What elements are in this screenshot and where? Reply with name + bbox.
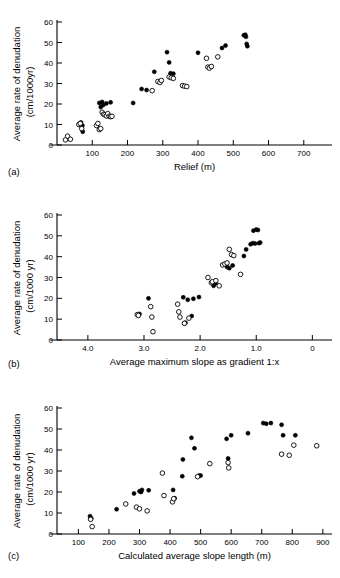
x-tick-label: 400 [191, 149, 205, 158]
data-point-open [225, 261, 230, 266]
data-point-filled [152, 70, 156, 74]
y-tick-label: 40 [44, 446, 53, 455]
x-tick-label: 900 [316, 538, 330, 547]
data-point-open [231, 253, 236, 258]
data-point-filled [191, 297, 195, 301]
data-point-open [215, 55, 220, 60]
y-tick-label: 20 [44, 488, 53, 497]
y-tick-label: 10 [44, 509, 53, 518]
panel-label-a: (a) [8, 166, 20, 177]
x-axis-title: Calculated average slope length (m) [118, 550, 271, 561]
x-tick-label: 800 [286, 538, 300, 547]
data-point-filled [132, 491, 136, 495]
data-point-open [176, 310, 181, 315]
data-point-filled [258, 241, 262, 245]
data-point-open [187, 316, 192, 321]
y-axis-title-line2: (cm/1000 yr) [24, 452, 35, 505]
data-point-open [217, 284, 222, 289]
data-point-filled [196, 51, 200, 55]
chart-panel-c: 0102030405060100200300400500600700800900… [0, 386, 340, 578]
data-point-open [96, 121, 101, 126]
chart-panel-a: 0102030405060100200300400500600700Relief… [0, 0, 340, 190]
data-point-open [226, 466, 231, 471]
data-point-open [184, 84, 189, 89]
data-point-filled [256, 228, 260, 232]
x-tick-label: 400 [163, 538, 177, 547]
y-tick-label: 0 [49, 336, 54, 345]
data-point-open [79, 126, 84, 131]
data-point-open [175, 302, 180, 307]
data-point-filled [269, 421, 273, 425]
data-point-open [314, 444, 319, 449]
x-tick-label: 700 [297, 149, 311, 158]
data-point-open [137, 507, 142, 512]
data-point-open [159, 78, 164, 83]
data-point-open [68, 137, 73, 142]
x-tick-label: 500 [194, 538, 208, 547]
data-point-open [214, 278, 219, 283]
y-axis-title-line2: (cm/1000yr) [24, 67, 35, 118]
data-point-open [195, 474, 200, 479]
data-point-open [123, 502, 128, 507]
data-point-filled [246, 431, 250, 435]
data-point-filled [293, 433, 297, 437]
y-tick-label: 30 [44, 274, 53, 283]
panel-label-c: (c) [8, 550, 19, 561]
x-tick-label: 4.0 [82, 344, 94, 353]
scatter-plot-b: 01020304050604.03.02.01.00Average maximu… [0, 190, 340, 386]
data-point-filled [104, 101, 108, 105]
x-tick-label: 1.0 [251, 344, 263, 353]
data-point-filled [145, 88, 149, 92]
data-point-open [136, 313, 141, 318]
data-point-filled [264, 422, 268, 426]
data-point-filled [231, 263, 235, 267]
data-point-filled [245, 44, 249, 48]
data-point-open [171, 496, 176, 501]
y-tick-label: 0 [49, 530, 54, 539]
panel-label-b: (b) [8, 358, 20, 369]
scatter-plot-c: 0102030405060100200300400500600700800900… [0, 386, 340, 578]
data-point-filled [131, 101, 135, 105]
data-point-open [162, 493, 167, 498]
y-axis-title-line1: Average rate of denudation [11, 414, 22, 528]
data-point-filled [220, 46, 224, 50]
data-point-filled [186, 298, 190, 302]
data-point-filled [140, 488, 144, 492]
x-axis-title: Average maximum slope as gradient 1:x [110, 356, 280, 367]
data-point-filled [146, 296, 150, 300]
data-point-filled [244, 247, 248, 251]
x-tick-label: 0 [310, 344, 315, 353]
y-tick-label: 60 [44, 18, 53, 27]
y-tick-label: 10 [44, 121, 53, 130]
data-point-open [98, 126, 103, 131]
data-point-filled [224, 44, 228, 48]
data-point-open [110, 114, 115, 119]
x-tick-label: 500 [227, 149, 241, 158]
data-point-open [90, 524, 95, 529]
data-point-open [209, 64, 214, 69]
data-point-filled [242, 254, 246, 258]
data-point-open [279, 452, 284, 457]
y-tick-label: 30 [44, 467, 53, 476]
scatter-plot-a: 0102030405060100200300400500600700Relief… [0, 0, 340, 190]
x-tick-label: 600 [224, 538, 238, 547]
x-tick-label: 300 [156, 149, 170, 158]
data-point-open [150, 315, 155, 320]
y-tick-label: 50 [44, 425, 53, 434]
data-point-open [148, 304, 153, 309]
data-point-filled [167, 60, 171, 64]
data-point-filled [280, 423, 284, 427]
data-point-open [171, 76, 176, 81]
data-point-open [182, 321, 187, 326]
data-point-filled [165, 50, 169, 54]
y-tick-label: 40 [44, 253, 53, 262]
data-point-filled [225, 437, 229, 441]
data-point-open [207, 461, 212, 466]
x-tick-label: 700 [255, 538, 269, 547]
y-tick-label: 0 [49, 141, 54, 150]
data-point-open [292, 443, 297, 448]
data-point-open [178, 315, 183, 320]
x-tick-label: 300 [133, 538, 147, 547]
y-tick-label: 20 [44, 294, 53, 303]
y-axis-title-line1: Average rate of denudation [11, 221, 22, 335]
